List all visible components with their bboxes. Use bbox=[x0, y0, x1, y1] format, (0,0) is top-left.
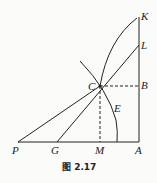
label-E: E bbox=[113, 102, 121, 114]
label-L: L bbox=[140, 39, 147, 51]
geometry-figure: K L B C E P G M A 图 2.17 bbox=[0, 0, 157, 183]
label-K: K bbox=[140, 10, 149, 22]
label-B: B bbox=[141, 79, 148, 91]
figure-caption: 图 2.17 bbox=[62, 162, 96, 172]
label-P: P bbox=[11, 144, 19, 156]
point-C-dot bbox=[98, 84, 101, 87]
label-C: C bbox=[88, 80, 96, 92]
label-G: G bbox=[51, 144, 59, 156]
label-M: M bbox=[94, 144, 105, 156]
line-GL bbox=[57, 45, 139, 142]
line-PC bbox=[18, 86, 100, 142]
label-A: A bbox=[134, 144, 142, 156]
curve-CK bbox=[100, 18, 137, 86]
arc-CE bbox=[80, 61, 117, 142]
